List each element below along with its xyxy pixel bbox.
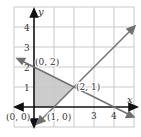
graph: y x 4 3 2 1 3 4 (0, 2) (2, 1) (0, 0) (1,…	[0, 0, 141, 137]
x-axis-arrow-left-icon	[15, 104, 23, 111]
x-axis-label: x	[127, 94, 133, 105]
point-label-0-2: (0, 2)	[35, 57, 59, 67]
tick-y3: 3	[24, 43, 30, 53]
y-axis-arrow-up-icon	[31, 9, 38, 17]
line-1-arrow-right-icon	[126, 112, 134, 118]
point-label-2-1: (2, 1)	[76, 82, 100, 92]
line-2	[37, 26, 135, 124]
point-label-1-0: (1, 0)	[47, 112, 71, 122]
tick-y2: 2	[24, 63, 30, 73]
tick-y4: 4	[24, 23, 30, 33]
tick-y1: 1	[24, 83, 30, 93]
tick-x3: 3	[91, 111, 97, 121]
tick-x4: 4	[111, 111, 117, 121]
y-axis-label: y	[37, 6, 44, 17]
grid	[14, 7, 134, 127]
point-label-0-0: (0, 0)	[6, 112, 30, 122]
y-axis-arrow-down-icon	[31, 119, 38, 127]
